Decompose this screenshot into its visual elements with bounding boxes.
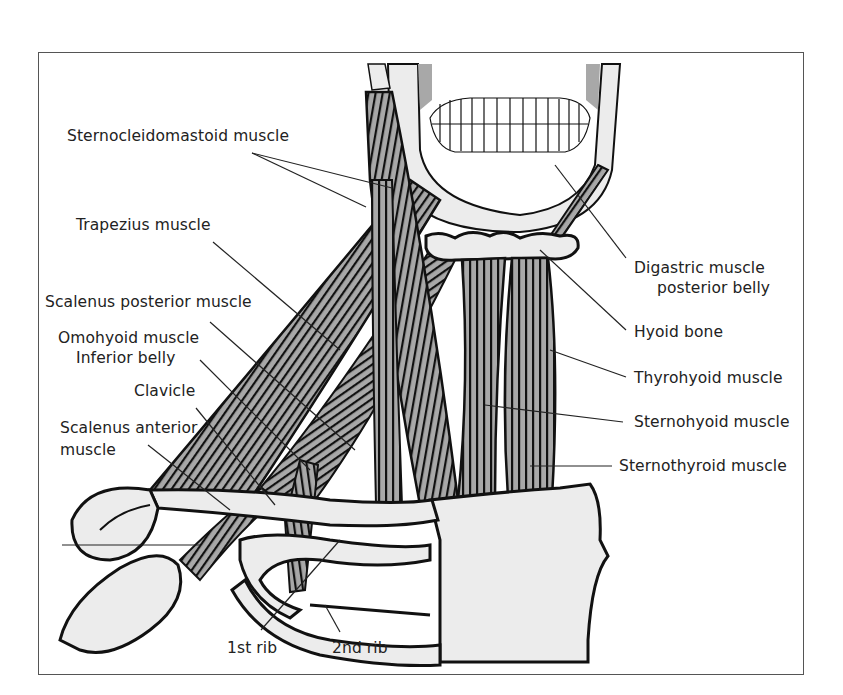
label-first-rib: 1st rib [227,638,277,658]
label-hyoid-bone: Hyoid bone [634,322,723,342]
label-digastric-posterior-belly: posterior belly [657,278,770,298]
sternohyoid-muscle [458,258,505,500]
label-omohyoid: Omohyoid muscle [58,328,199,348]
teeth [430,98,590,152]
humerus-head [72,488,158,560]
thyrohyoid-sternothyroid-muscle [505,258,555,498]
label-digastric: Digastric muscle [634,258,765,278]
label-trapezius: Trapezius muscle [76,215,211,235]
first-rib [240,535,430,618]
hyoid-bone [426,232,578,260]
label-sternocleidomastoid: Sternocleidomastoid muscle [67,126,289,146]
label-thyrohyoid: Thyrohyoid muscle [634,368,783,388]
label-sternohyoid: Sternohyoid muscle [634,412,790,432]
sternum [430,484,608,662]
label-scalenus-posterior: Scalenus posterior muscle [45,292,252,312]
label-scalenus-anterior-line2: muscle [60,440,116,460]
label-omohyoid-inferior-belly: Inferior belly [76,348,175,368]
label-sternothyroid: Sternothyroid muscle [619,456,787,476]
label-second-rib: 2nd rib [332,638,388,658]
label-scalenus-anterior: Scalenus anterior [60,418,198,438]
digastric-muscle [550,165,608,240]
acromion [60,556,181,653]
label-clavicle: Clavicle [134,381,195,401]
